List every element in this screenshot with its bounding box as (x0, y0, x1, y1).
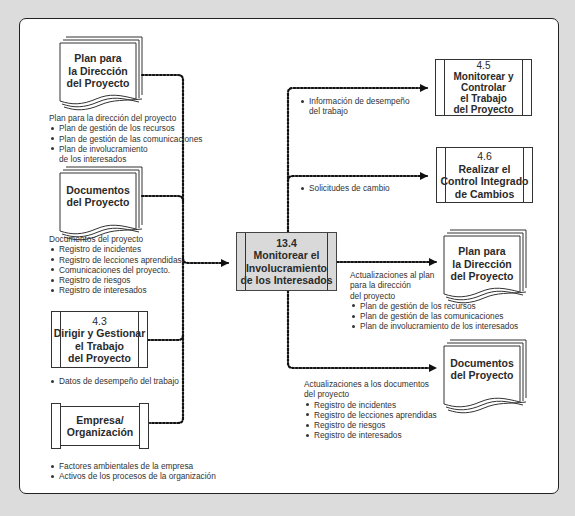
desc-item: Registro de incidentes (49, 244, 182, 254)
title-line: Controlar (461, 82, 506, 93)
desc-item: Solicitudes de cambio (299, 183, 390, 193)
output-documents-desc: Actualizaciones a los documentos del pro… (304, 379, 437, 441)
title-line: de los Interesados (240, 274, 332, 287)
enterprise-desc: Factores ambientales de la empresa Activ… (49, 461, 216, 482)
title-line: Monitorear el (254, 249, 320, 262)
process-4-5-box: 4.5 Monitorear y Controlar el Trabajo de… (435, 59, 532, 116)
title-line: Plan para (74, 52, 121, 65)
desc-item: Plan de involucramiento de los interesad… (350, 321, 518, 331)
title-line: Documentos (450, 357, 514, 370)
process-number: 4.5 (477, 60, 491, 71)
process-4-3-box: 4.3 Dirigir y Gestionar el Trabajo del P… (51, 311, 148, 368)
input-plan-desc: Plan para la dirección del proyecto Plan… (49, 113, 202, 164)
output-plan-desc: Actualizaciones al plan para la direcció… (350, 270, 518, 332)
title-line: del Proyecto (68, 352, 131, 365)
title-line: del Proyecto (453, 104, 513, 115)
title-line: el Trabajo (460, 93, 507, 104)
desc-heading: Actualizaciones a los documentos (304, 379, 437, 389)
title-line: del Proyecto (66, 77, 129, 90)
desc-item: Registro de riesgos (304, 420, 437, 430)
process-4-5-label: Información de desempeño del trabajo (299, 96, 410, 117)
title-line: la Dirección (68, 65, 128, 78)
desc-item: Registro de interesados (49, 285, 182, 295)
desc-heading: Actualizaciones al plan (350, 270, 518, 280)
desc-item: Plan de involucramiento (49, 144, 202, 154)
input-documents-desc: Documentos del proyecto Registro de inci… (49, 234, 182, 296)
title-line: Empresa/ (76, 414, 123, 427)
desc-heading: Documentos del proyecto (49, 234, 182, 244)
desc-item: Plan de gestión de los recursos (49, 123, 202, 133)
desc-item: Registro de riesgos (49, 275, 182, 285)
desc-item: Datos de desempeño del trabajo (49, 376, 179, 386)
input-plan-title: Plan para la Dirección del Proyecto (60, 46, 136, 96)
title-line: Plan para (458, 245, 505, 258)
process-number: 4.6 (477, 150, 492, 163)
desc-heading: Plan para la dirección del proyecto (49, 113, 202, 123)
input-documents-title: Documentos del Proyecto (60, 176, 136, 216)
desc-heading: para la dirección (350, 280, 518, 290)
desc-item-continuation: de los interesados (49, 154, 202, 164)
desc-item: Factores ambientales de la empresa (49, 461, 216, 471)
desc-item: Registro de lecciones aprendidas (304, 410, 437, 420)
title-line: de Cambios (455, 188, 515, 201)
desc-item: Plan de gestión de los recursos (350, 301, 518, 311)
desc-item: Registro de incidentes (304, 400, 437, 410)
desc-item: Información de desempeño (299, 96, 410, 106)
title-line: Documentos (66, 184, 130, 197)
desc-item: Plan de gestión de las comunicaciones (350, 311, 518, 321)
center-process-13-4: 13.4 Monitorear el Involucramiento de lo… (236, 232, 337, 291)
desc-heading: del proyecto (350, 291, 518, 301)
desc-item: Registro de lecciones aprendidas (49, 255, 182, 265)
title-line: la Dirección (452, 258, 512, 271)
title-line: Dirigir y Gestionar (54, 327, 146, 340)
enterprise-title: Empresa/ Organización (60, 406, 140, 446)
title-line: del Proyecto (66, 196, 129, 209)
desc-item: Registro de interesados (304, 430, 437, 440)
title-line: Control Integrado (440, 175, 528, 188)
process-4-3-desc: Datos de desempeño del trabajo (49, 376, 179, 386)
process-4-6-label: Solicitudes de cambio (299, 183, 390, 193)
desc-item: Activos de los procesos de la organizaci… (49, 471, 216, 481)
title-line: Involucramiento (246, 262, 327, 275)
title-line: Monitorear y (453, 71, 513, 82)
title-line: el Trabajo (75, 340, 124, 353)
enterprise-right-cap (139, 403, 149, 449)
desc-heading: del proyecto (304, 389, 437, 399)
title-line: del Proyecto (450, 369, 513, 382)
desc-item-continuation: del trabajo (299, 106, 410, 116)
desc-item: Plan de gestión de las comunicaciones (49, 134, 202, 144)
process-number: 13.4 (276, 237, 296, 250)
title-line: Organización (67, 426, 134, 439)
title-line: Realizar el (459, 163, 511, 176)
process-4-6-box: 4.6 Realizar el Control Integrado de Cam… (436, 147, 533, 203)
desc-item: Comunicaciones del proyecto. (49, 265, 182, 275)
process-number: 4.3 (92, 315, 107, 328)
output-documents-title: Documentos del Proyecto (444, 349, 520, 389)
